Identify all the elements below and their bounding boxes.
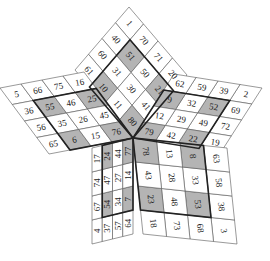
cell-number: 58 <box>214 178 225 188</box>
cell-number: 24 <box>102 151 112 161</box>
cell-number: 38 <box>216 202 227 212</box>
cell-number: 62 <box>175 78 185 89</box>
cell-number: 72 <box>220 121 230 132</box>
cell-number: 67 <box>92 202 102 212</box>
cell-number: 27 <box>113 173 123 183</box>
cell-number: 37 <box>102 223 112 233</box>
cell-number: 77 <box>123 146 133 156</box>
cell-number: 12 <box>154 110 164 121</box>
cell-number: 53 <box>193 199 204 209</box>
star-puzzle-board: 1707120405150216031304161101180239596269… <box>0 0 270 261</box>
cell-number: 42 <box>166 130 176 141</box>
cell-number: 18 <box>148 218 159 228</box>
cell-number: 54 <box>102 199 112 209</box>
cell-number: 78 <box>141 146 152 156</box>
cell-number: 33 <box>190 175 201 185</box>
cell-number: 57 <box>113 221 123 231</box>
cell-number: 47 <box>102 175 112 185</box>
cell-number: 68 <box>195 223 206 233</box>
cell-number: 34 <box>113 197 123 207</box>
cell-number: 17 <box>92 154 102 164</box>
cell-number: 52 <box>208 101 218 112</box>
cell-number: 74 <box>92 178 102 188</box>
cell-number: 43 <box>143 170 154 180</box>
cell-number: 4 <box>92 228 102 233</box>
cell-number: 48 <box>169 197 180 207</box>
cell-number: 44 <box>113 149 123 159</box>
cell-number: 28 <box>167 173 178 183</box>
cell-number: 73 <box>172 221 183 231</box>
cell-number: 32 <box>186 98 196 109</box>
cell-number: 13 <box>164 149 175 159</box>
cell-number: 14 <box>123 170 133 180</box>
cell-number: 7 <box>123 197 133 202</box>
cell-number: 64 <box>123 218 133 228</box>
cell-number: 23 <box>146 194 157 204</box>
cell-number: 63 <box>211 154 222 164</box>
cell-number: 22 <box>188 133 198 144</box>
